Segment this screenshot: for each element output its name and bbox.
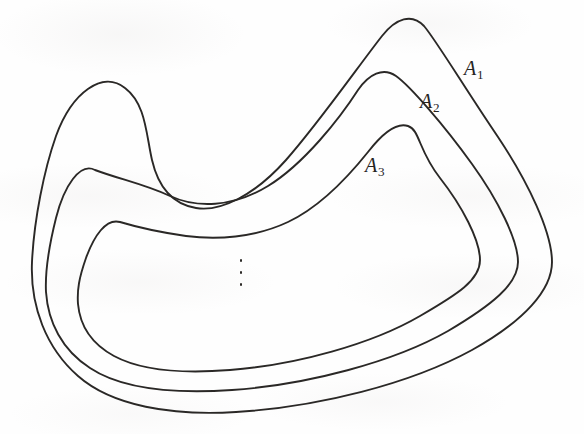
label-a2-subscript: 2 — [433, 100, 440, 115]
curve-A2 — [46, 72, 518, 391]
label-a3-base: A — [365, 154, 377, 176]
ellipsis-dot — [240, 271, 243, 274]
ellipsis-dot — [240, 283, 243, 286]
vertical-ellipsis-icon — [239, 259, 243, 286]
label-a3: A3 — [365, 155, 385, 178]
ellipsis-dot — [240, 259, 243, 262]
curve-A3 — [78, 125, 480, 371]
label-a1-base: A — [464, 57, 476, 79]
label-a2-base: A — [420, 90, 432, 112]
figure-canvas: A1 A2 A3 — [0, 0, 584, 434]
label-a3-subscript: 3 — [378, 164, 385, 179]
label-a1-subscript: 1 — [477, 67, 484, 82]
label-a1: A1 — [464, 58, 484, 81]
nested-curves-svg — [0, 0, 584, 434]
label-a2: A2 — [420, 91, 440, 114]
